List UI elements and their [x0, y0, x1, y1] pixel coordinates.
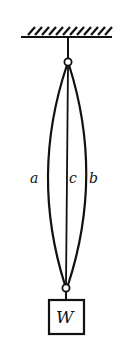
weight-label: W [56, 307, 75, 327]
wire-c-label: c [69, 170, 77, 186]
diagram-canvas: a c b W [0, 0, 120, 346]
wire-b-label: b [89, 170, 98, 186]
wire-a [48, 65, 67, 285]
wire-c [66, 65, 68, 285]
bottom-pin [62, 284, 69, 291]
fixed-ceiling [21, 27, 112, 37]
wire-system-diagram: a c b W [0, 0, 120, 346]
wire-a-label: a [30, 170, 38, 186]
top-pin [64, 58, 71, 65]
